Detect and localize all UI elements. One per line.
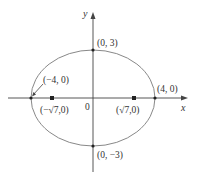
- right-focus-point: [132, 96, 136, 100]
- top-vertex-point: [91, 48, 94, 51]
- left-vertex-label: (−4, 0): [43, 75, 69, 86]
- bottom-vertex-point: [91, 144, 94, 147]
- ellipse-diagram: y x 0 (0, 3) (0, −3) (−4, 0) (4, 0) (−√7…: [0, 0, 197, 179]
- origin-label: 0: [85, 102, 90, 112]
- left-vertex-point: [29, 96, 32, 99]
- left-focus-point: [50, 96, 54, 100]
- x-axis-arrow-icon: [181, 96, 188, 101]
- right-focus-label: (√7,0): [116, 105, 139, 116]
- bottom-vertex-label: (0, −3): [97, 150, 123, 161]
- y-axis-label: y: [82, 8, 88, 19]
- right-vertex-label: (4, 0): [157, 84, 178, 95]
- y-axis-arrow-icon: [91, 12, 96, 19]
- diagram-canvas: y x 0 (0, 3) (0, −3) (−4, 0) (4, 0) (−√7…: [0, 0, 197, 179]
- left-focus-label: (−√7,0): [40, 105, 69, 116]
- right-vertex-point: [153, 96, 156, 99]
- x-axis-label: x: [180, 102, 186, 113]
- top-vertex-label: (0, 3): [97, 38, 118, 49]
